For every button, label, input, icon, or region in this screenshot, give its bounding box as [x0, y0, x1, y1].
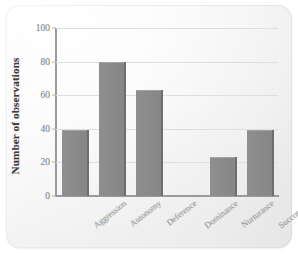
bar-slot: [93, 28, 130, 196]
bar-slot: [130, 28, 167, 196]
x-tick-label: Dominance: [202, 198, 239, 230]
bar-slot: [167, 28, 204, 196]
bar-succorance: [247, 130, 273, 196]
bar-slot: [204, 28, 241, 196]
bar-autonomy: [99, 62, 125, 196]
bar-series: [56, 28, 278, 196]
y-axis-title: Number of observations: [7, 36, 23, 196]
y-tick-label: 80: [41, 57, 51, 67]
bar-aggression: [62, 130, 88, 196]
figure-bar-chart: Number of observations 020406080100 Aggr…: [0, 0, 298, 254]
x-tick-label: Aggression: [91, 198, 128, 230]
x-tick-label: Deference: [164, 198, 198, 228]
bar-nurturance: [210, 157, 236, 196]
bar-slot: [241, 28, 278, 196]
x-tick-label: Autonomy: [127, 198, 162, 229]
x-axis-labels: AggressionAutonomyDeferenceDominanceNurt…: [56, 198, 278, 250]
plot-area: 020406080100: [56, 28, 278, 196]
y-axis-title-label: Number of observations: [9, 58, 21, 175]
y-tick-label: 40: [41, 124, 51, 134]
bar-slot: [56, 28, 93, 196]
x-tick-label: Nurturance: [239, 198, 276, 230]
y-tick-label: 100: [36, 23, 50, 33]
y-tick-label: 60: [41, 90, 51, 100]
y-tick-label: 20: [41, 157, 51, 167]
bar-deference: [136, 90, 162, 196]
y-tick-label: 0: [45, 191, 50, 201]
